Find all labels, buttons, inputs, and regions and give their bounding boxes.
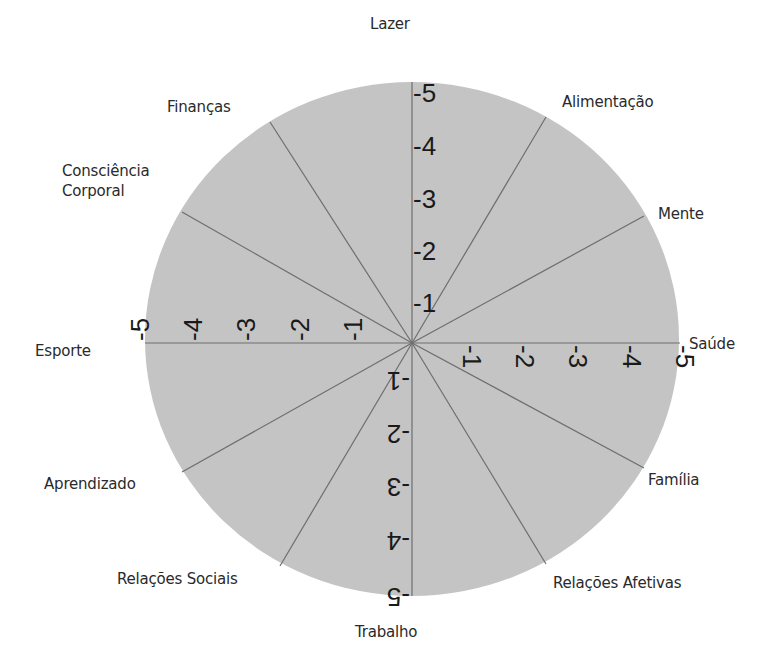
svg-text:-5: -5 xyxy=(125,318,155,341)
area-label-mente: Mente xyxy=(658,204,704,224)
svg-text:-2: -2 xyxy=(413,236,436,266)
svg-text:-5: -5 xyxy=(413,78,436,108)
svg-text:-4: -4 xyxy=(387,526,410,556)
area-label-alimentacao: Alimentação xyxy=(562,92,653,112)
svg-text:-2: -2 xyxy=(510,345,540,368)
svg-text:-3: -3 xyxy=(413,184,436,214)
area-label-consciencia-line2: Corporal xyxy=(62,181,150,201)
area-label-lazer: Lazer xyxy=(370,14,410,34)
svg-text:-2: -2 xyxy=(285,318,315,341)
svg-text:-4: -4 xyxy=(617,345,647,368)
area-label-saude: Saúde xyxy=(689,334,735,354)
svg-text:-2: -2 xyxy=(387,419,410,449)
area-label-consciencia-corporal: Consciência Corporal xyxy=(62,161,150,201)
svg-text:-1: -1 xyxy=(338,318,368,341)
area-label-trabalho: Trabalho xyxy=(355,622,417,642)
svg-text:-1: -1 xyxy=(387,366,410,396)
svg-text:-1: -1 xyxy=(457,345,487,368)
area-label-consciencia-line1: Consciência xyxy=(62,161,150,181)
svg-text:-1: -1 xyxy=(413,288,436,318)
svg-text:-4: -4 xyxy=(413,131,436,161)
area-label-aprendizado: Aprendizado xyxy=(44,474,136,494)
svg-text:-3: -3 xyxy=(231,318,261,341)
svg-text:-3: -3 xyxy=(563,345,593,368)
svg-text:-4: -4 xyxy=(178,318,208,341)
area-label-financas: Finanças xyxy=(167,97,231,117)
svg-text:-5: -5 xyxy=(387,582,410,612)
svg-text:-3: -3 xyxy=(387,472,410,502)
area-label-relacoes-afetivas: Relações Afetivas xyxy=(553,573,681,593)
area-label-relacoes-sociais: Relações Sociais xyxy=(117,569,238,589)
area-label-familia: Família xyxy=(648,470,699,490)
area-label-esporte: Esporte xyxy=(35,341,91,361)
